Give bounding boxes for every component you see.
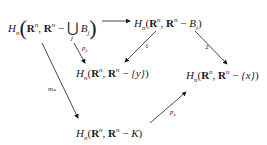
set-k: K (131, 127, 138, 139)
union-symbol: ⋃ (67, 20, 78, 35)
arrow-p-x (150, 92, 186, 123)
union-index: j (71, 35, 73, 42)
paren-close: ) (89, 15, 96, 40)
arrow-1 (125, 31, 156, 62)
set-index-i: i (196, 24, 198, 32)
node-top-right: Hn(Rn, Rn − Bi) (134, 17, 202, 32)
node-middle-left: Hn(Rn, Rn − {y}) (76, 67, 149, 82)
node-top-left: Hn(Rn, Rn − ⋃j Bj) (8, 14, 97, 37)
arrow-2 (195, 31, 227, 64)
label-1: 1 (145, 42, 149, 50)
node-bottom: Hn(Rn, Rn − K) (76, 127, 142, 142)
set-y: {y} (131, 67, 145, 79)
label-m-star: m* (48, 85, 56, 94)
set-b-i: B (189, 17, 196, 29)
label-p-y: py (82, 44, 88, 53)
paren-open: ( (19, 15, 26, 40)
set-x: {x} (241, 69, 255, 81)
h-symbol: H (8, 22, 16, 34)
label-p-x: px (170, 108, 176, 117)
node-middle-right: Hn(Rn, Rn − {x}) (186, 69, 259, 84)
label-2: 2 (205, 43, 209, 51)
minus: − (55, 22, 67, 34)
arrow-m-star (42, 43, 78, 118)
